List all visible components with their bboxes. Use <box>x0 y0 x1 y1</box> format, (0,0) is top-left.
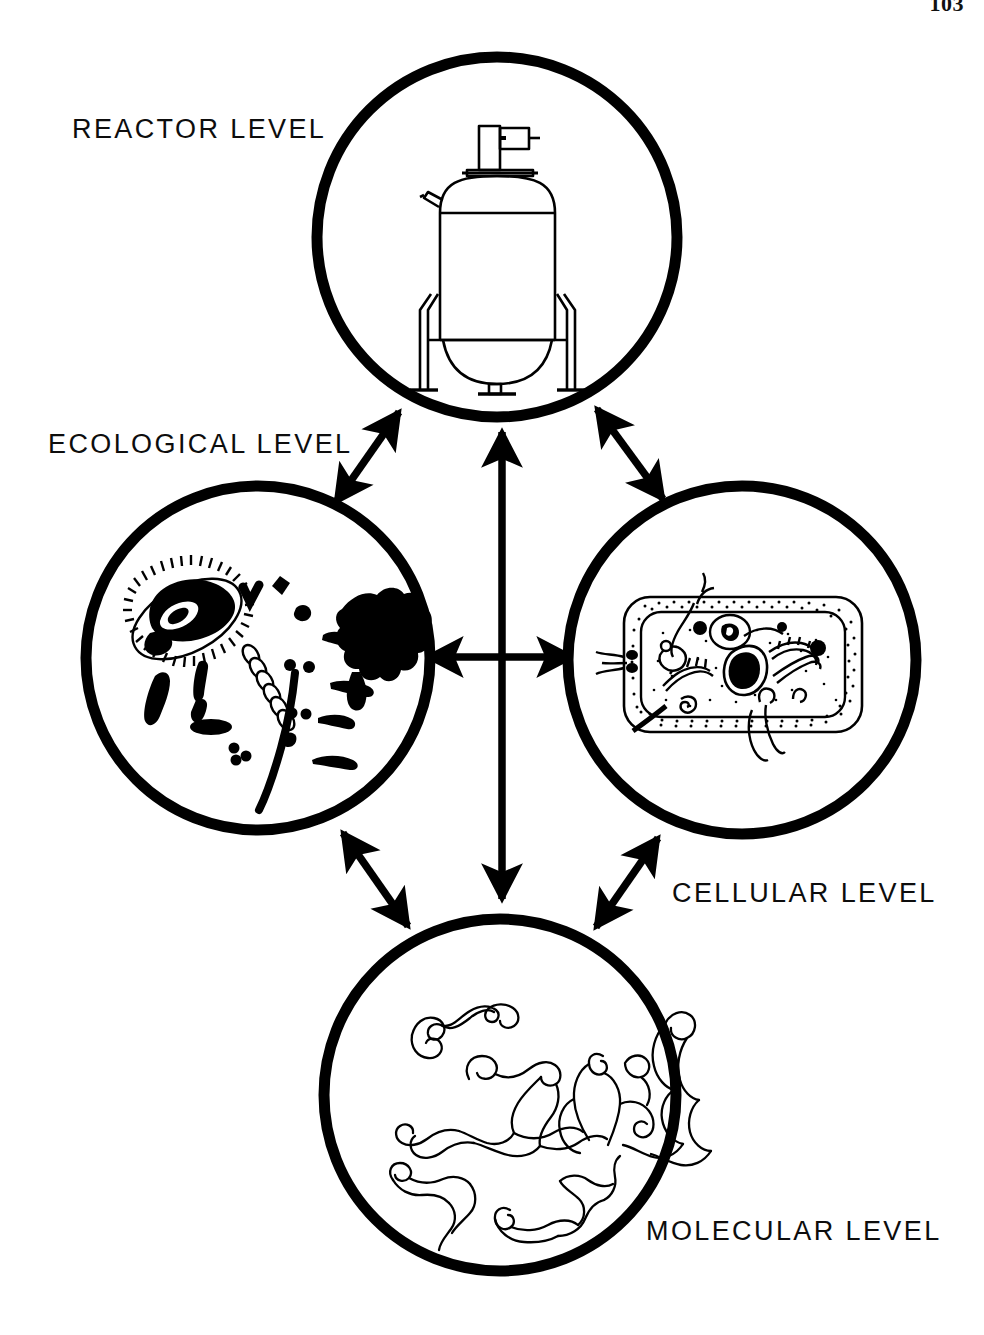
figure-root: 103 <box>0 0 984 1335</box>
coccus <box>301 709 312 720</box>
label-molecular-level: MOLECULAR LEVEL <box>646 1218 942 1245</box>
inclusion-body <box>710 615 750 649</box>
arrow-ecological-molecular <box>343 833 408 926</box>
node-molecular-circle <box>324 919 676 1271</box>
coccus <box>303 661 315 673</box>
node-reactor-circle <box>317 57 677 417</box>
arrow-cellular-molecular <box>596 838 658 927</box>
node-cellular[interactable] <box>568 486 916 834</box>
levels-diagram-svg <box>0 0 984 1335</box>
ribosome <box>693 621 707 635</box>
flagellum-basal-body <box>626 663 638 673</box>
label-reactor-level: REACTOR LEVEL <box>72 116 326 143</box>
node-ecological[interactable] <box>86 486 432 830</box>
coccus <box>229 743 240 754</box>
arrow-reactor-cellular <box>597 409 663 499</box>
oval-bacterium <box>190 719 232 735</box>
coccus <box>241 751 252 762</box>
label-ecological-level: ECOLOGICAL LEVEL <box>48 431 353 458</box>
node-reactor[interactable] <box>317 57 677 417</box>
coccus <box>231 755 242 766</box>
page-number: 103 <box>930 0 965 17</box>
label-cellular-level: CELLULAR LEVEL <box>672 880 937 907</box>
flagellum-basal-body <box>626 650 638 660</box>
